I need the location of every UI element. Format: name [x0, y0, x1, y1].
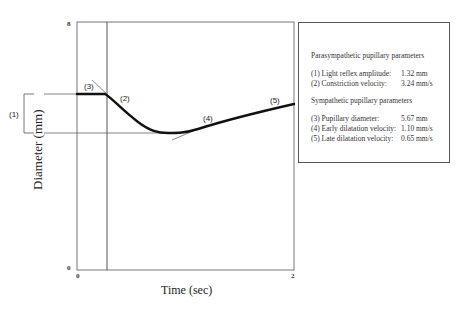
parameters-legend: Parasympathetic pupillary parameters (1)… [298, 22, 450, 163]
row-label: (1) Light reflex amplitude: [311, 69, 391, 78]
parasympathetic-title: Parasympathetic pupillary parameters [311, 51, 424, 60]
x-tick-right: 2 [291, 272, 295, 280]
marker-5: (5) [270, 96, 280, 105]
row-value: 1.10 mm/s [401, 124, 433, 133]
legend-row-light-reflex: (1) Light reflex amplitude: 1.32 mm [311, 69, 446, 78]
marker-1: (1) [9, 110, 19, 119]
plot-frame [77, 22, 294, 270]
x-tick-left: 0 [76, 272, 80, 280]
pupil-diameter-curve [77, 94, 294, 133]
row-value: 0.65 mm/s [401, 134, 433, 143]
constriction-tangent [92, 80, 108, 95]
y-tick-bottom: 0 [67, 264, 71, 272]
y-axis-label: Diameter (mm) [30, 110, 46, 191]
legend-row-constriction: (2) Constriction velocity: 3.24 mm/s [311, 79, 446, 88]
marker-2: (2) [120, 94, 130, 103]
marker-4: (4) [203, 114, 213, 123]
legend-row-late-dilatation: (5) Late dilatation velocity: 0.65 mm/s [311, 134, 446, 143]
y-tick-top: 8 [67, 20, 71, 28]
row-label: (2) Constriction velocity: [311, 79, 387, 88]
x-axis-label: Time (sec) [161, 283, 212, 298]
legend-row-pupil-diameter: (3) Pupillary diameter: 5.67 mm [311, 114, 446, 123]
marker-3: (3) [84, 82, 94, 91]
row-value: 3.24 mm/s [401, 79, 433, 88]
row-value: 5.67 mm [401, 114, 428, 123]
legend-row-early-dilatation: (4) Early dilatation velocity: 1.10 mm/s [311, 124, 446, 133]
sympathetic-title: Sympathetic pupillary parameters [311, 96, 412, 105]
row-label: (3) Pupillary diameter: [311, 114, 379, 123]
row-label: (5) Late dilatation velocity: [311, 134, 393, 143]
row-label: (4) Early dilatation velocity: [311, 124, 396, 133]
row-value: 1.32 mm [401, 69, 428, 78]
